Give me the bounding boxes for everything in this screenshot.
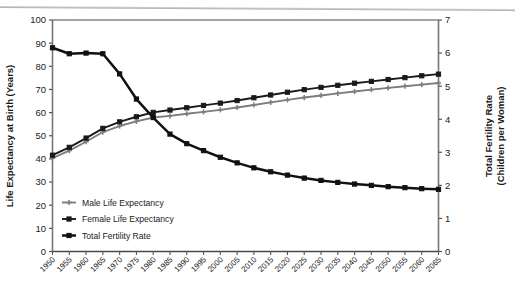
data-point bbox=[50, 153, 54, 157]
y-axis-title-right-line2: (Children per Woman) bbox=[495, 86, 506, 185]
data-point bbox=[185, 142, 189, 146]
x-tick-label: 2065 bbox=[424, 255, 443, 274]
x-tick-label: 2035 bbox=[323, 255, 342, 274]
data-point bbox=[386, 77, 390, 81]
data-point bbox=[168, 108, 172, 112]
data-point bbox=[369, 79, 373, 83]
series-line bbox=[53, 83, 439, 158]
data-point bbox=[84, 51, 88, 55]
x-tick-label: 2060 bbox=[407, 255, 426, 274]
y-axis-title-left: Life Expectancy at Birth (Years) bbox=[4, 65, 15, 208]
data-point bbox=[134, 97, 138, 101]
data-point bbox=[352, 89, 357, 94]
data-point bbox=[185, 106, 189, 110]
axis-titles-layer: Life Expectancy at Birth (Years)Total Fe… bbox=[4, 65, 506, 208]
data-point bbox=[285, 97, 290, 102]
series-layer bbox=[50, 46, 441, 192]
data-point bbox=[151, 115, 155, 119]
data-point bbox=[269, 170, 273, 174]
chart-canvas: 1009080706050403020100765432101950195519… bbox=[0, 0, 515, 286]
data-point bbox=[420, 74, 424, 78]
y-tick-label-left: 60 bbox=[35, 107, 46, 118]
x-tick-label: 1995 bbox=[189, 255, 208, 274]
data-point bbox=[201, 103, 205, 107]
data-point bbox=[252, 96, 256, 100]
data-point bbox=[436, 80, 441, 85]
data-point bbox=[302, 95, 307, 100]
series-3 bbox=[50, 46, 440, 192]
data-point bbox=[319, 178, 323, 182]
y-tick-label-left: 90 bbox=[35, 38, 46, 49]
x-tick-label: 2005 bbox=[223, 255, 242, 274]
data-point bbox=[403, 186, 407, 190]
legend-item: Female Life Expectancy bbox=[62, 214, 174, 224]
y-tick-label-right: 1 bbox=[445, 213, 450, 224]
data-point bbox=[50, 46, 54, 50]
data-point bbox=[336, 83, 340, 87]
data-point bbox=[302, 176, 306, 180]
data-point bbox=[118, 72, 122, 76]
series-2 bbox=[50, 72, 440, 157]
y-tick-label-right: 7 bbox=[445, 14, 450, 25]
data-point bbox=[201, 149, 205, 153]
x-tick-label: 1980 bbox=[139, 255, 158, 274]
data-point bbox=[436, 72, 440, 76]
data-point bbox=[268, 100, 273, 105]
x-tick-label: 2000 bbox=[206, 255, 225, 274]
data-point bbox=[134, 115, 138, 119]
data-point bbox=[386, 185, 390, 189]
x-tick-label: 2050 bbox=[374, 255, 393, 274]
data-point bbox=[318, 93, 323, 98]
data-point bbox=[302, 88, 306, 92]
x-tick-label: 1955 bbox=[55, 255, 74, 274]
y-tick-label-left: 10 bbox=[35, 223, 46, 234]
data-point bbox=[269, 93, 273, 97]
data-point bbox=[168, 132, 172, 136]
data-point bbox=[101, 52, 105, 56]
x-tick-label: 1960 bbox=[72, 255, 91, 274]
data-point bbox=[285, 90, 289, 94]
y-tick-label-left: 20 bbox=[35, 200, 46, 211]
data-point bbox=[403, 76, 407, 80]
data-point bbox=[336, 180, 340, 184]
y-tick-label-left: 50 bbox=[35, 130, 46, 141]
x-tick-label: 1990 bbox=[172, 255, 191, 274]
x-tick-label: 2055 bbox=[391, 255, 410, 274]
x-tick-label: 2010 bbox=[240, 255, 259, 274]
legend-item: Total Fertility Rate bbox=[62, 231, 151, 241]
data-point bbox=[369, 87, 374, 92]
y-tick-label-right: 3 bbox=[445, 147, 450, 158]
y-tick-label-right: 0 bbox=[445, 246, 450, 257]
data-point bbox=[352, 182, 356, 186]
data-point bbox=[218, 101, 222, 105]
data-point bbox=[66, 200, 71, 205]
x-tick-label: 2030 bbox=[307, 255, 326, 274]
data-point bbox=[67, 217, 71, 221]
y-tick-label-left: 100 bbox=[30, 14, 46, 25]
data-point bbox=[285, 173, 289, 177]
data-point bbox=[235, 98, 239, 102]
data-point bbox=[167, 113, 172, 118]
y-tick-label-right: 6 bbox=[445, 47, 450, 58]
data-point bbox=[386, 85, 391, 90]
legend-label: Female Life Expectancy bbox=[82, 214, 174, 224]
x-tick-label: 2040 bbox=[340, 255, 359, 274]
data-point bbox=[369, 183, 373, 187]
data-point bbox=[184, 111, 189, 116]
y-tick-label-right: 5 bbox=[445, 81, 450, 92]
data-point bbox=[67, 233, 71, 237]
data-point bbox=[118, 120, 122, 124]
data-point bbox=[252, 166, 256, 170]
legend-layer: Male Life ExpectancyFemale Life Expectan… bbox=[62, 198, 174, 241]
chart-figure: 1009080706050403020100765432101950195519… bbox=[0, 0, 515, 286]
x-tick-label: 2045 bbox=[357, 255, 376, 274]
data-point bbox=[419, 82, 424, 87]
y-tick-label-left: 0 bbox=[41, 246, 46, 257]
data-point bbox=[319, 85, 323, 89]
x-tick-label: 2015 bbox=[256, 255, 275, 274]
x-tick-label: 1965 bbox=[89, 255, 108, 274]
data-point bbox=[101, 126, 105, 130]
x-tick-label: 2025 bbox=[290, 255, 309, 274]
data-point bbox=[235, 105, 240, 110]
data-point bbox=[134, 119, 139, 124]
